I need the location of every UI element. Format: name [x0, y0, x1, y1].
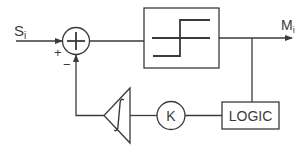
- hysteresis-icon: [152, 20, 210, 56]
- feedback-line: [76, 57, 104, 116]
- minus-sign-label: −: [63, 57, 71, 72]
- logic-label: LOGIC: [229, 108, 273, 124]
- block-diagram: Si + − Mi K LOGIC: [0, 0, 307, 153]
- input-label: Si: [14, 22, 26, 41]
- gain-label: K: [166, 108, 176, 124]
- integrator-block: [104, 88, 130, 143]
- plus-sign-label: +: [54, 45, 62, 60]
- output-label: Mi: [281, 17, 295, 35]
